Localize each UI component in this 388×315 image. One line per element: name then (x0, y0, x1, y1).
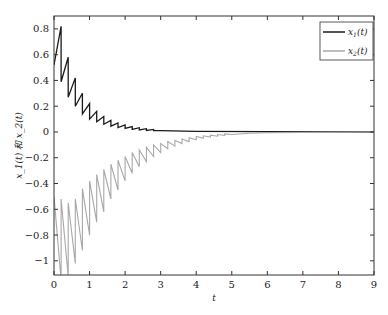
x-tick-label: 1 (86, 279, 92, 290)
legend-label-2: x2(t) (348, 46, 368, 57)
y-tick-label: −0.4 (25, 178, 49, 189)
x-tick-label: 9 (371, 279, 377, 290)
y-tick-label: −1 (34, 255, 49, 266)
y-tick-label: 0 (43, 126, 49, 137)
y-tick-label: 0.6 (33, 49, 49, 60)
legend-label-1: x1(t) (348, 27, 368, 38)
x-tick-label: 0 (51, 279, 57, 290)
x-tick-label: 5 (229, 279, 235, 290)
plot-area (54, 26, 374, 280)
y-tick-label: 0.2 (33, 101, 49, 112)
y-tick-label: −0.6 (25, 204, 49, 215)
y-tick-label: −0.2 (25, 152, 49, 163)
x-tick-label: 4 (193, 279, 199, 290)
chart-figure: 0123456789−1−0.8−0.6−0.4−0.200.20.40.60.… (0, 0, 388, 315)
y-tick-label: 0.4 (33, 75, 49, 86)
x-tick-label: 6 (264, 279, 270, 290)
x-tick-label: 2 (122, 279, 128, 290)
series-line-2 (54, 132, 374, 280)
x-tick-label: 3 (157, 279, 163, 290)
legend: x1(t)x2(t) (320, 22, 373, 60)
y-tick-label: 0.8 (33, 23, 49, 34)
x-tick-label: 8 (335, 279, 341, 290)
y-tick-label: −0.8 (25, 230, 49, 241)
y-axis-label: x_1(t) 和 x_2(t) (14, 112, 25, 179)
x-axis-label: t (212, 293, 216, 303)
x-tick-label: 7 (300, 279, 306, 290)
